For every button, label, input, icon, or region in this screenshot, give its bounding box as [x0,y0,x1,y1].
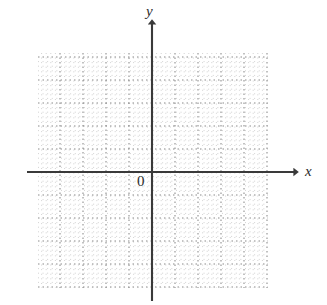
origin-label: 0 [137,174,145,189]
coordinate-plane-canvas [0,0,327,305]
axes-group [27,22,296,301]
y-axis-label: y [146,4,153,19]
coordinate-grid-figure: y x 0 [0,0,327,305]
x-axis-label: x [305,164,312,179]
